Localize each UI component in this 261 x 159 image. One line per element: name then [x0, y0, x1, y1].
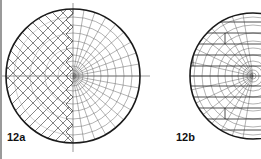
figure-label-12a: 12a [7, 131, 25, 143]
figure-12b [185, 8, 261, 144]
diagram-canvas [0, 0, 261, 159]
figure-label-12b: 12b [176, 131, 195, 143]
